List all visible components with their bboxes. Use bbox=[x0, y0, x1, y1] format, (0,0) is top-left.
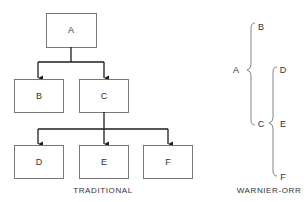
connector-a-to-bc bbox=[38, 47, 104, 78]
node-a: A bbox=[47, 14, 97, 48]
traditional-diagram: A B C D E bbox=[15, 14, 193, 196]
node-f-label: F bbox=[165, 157, 171, 167]
hierarchy-comparison-diagram: A B C D E bbox=[0, 0, 307, 202]
warnier-orr-diagram: A B C D E F WARNIER-ORR bbox=[233, 22, 301, 195]
node-c: C bbox=[80, 80, 129, 113]
warnier-orr-caption: WARNIER-ORR bbox=[237, 186, 302, 195]
traditional-caption: TRADITIONAL bbox=[73, 186, 133, 195]
brace-c bbox=[269, 67, 277, 176]
wo-node-f-label: F bbox=[280, 172, 286, 182]
wo-node-a-label: A bbox=[233, 65, 239, 75]
wo-node-c-label: C bbox=[258, 119, 265, 129]
node-d: D bbox=[15, 146, 64, 179]
node-e-label: E bbox=[101, 157, 107, 167]
connector-c-to-def bbox=[38, 112, 168, 144]
node-c-label: C bbox=[101, 91, 108, 101]
node-b: B bbox=[15, 80, 64, 113]
wo-node-d-label: D bbox=[280, 65, 287, 75]
node-b-label: B bbox=[36, 91, 42, 101]
node-a-label: A bbox=[68, 25, 74, 35]
node-f: F bbox=[144, 146, 193, 179]
node-e: E bbox=[80, 146, 129, 179]
wo-node-e-label: E bbox=[280, 119, 286, 129]
wo-node-b-label: B bbox=[258, 22, 264, 32]
node-d-label: D bbox=[36, 157, 43, 167]
brace-a bbox=[247, 23, 255, 125]
